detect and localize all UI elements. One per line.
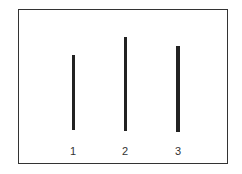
comparison-line-3: [176, 46, 180, 132]
line-label-2: 2: [115, 145, 135, 157]
line-label-1: 1: [63, 145, 83, 157]
diagram-frame: [18, 9, 228, 164]
comparison-line-2: [124, 37, 127, 131]
comparison-line-1: [72, 55, 75, 130]
line-label-3: 3: [168, 145, 188, 157]
